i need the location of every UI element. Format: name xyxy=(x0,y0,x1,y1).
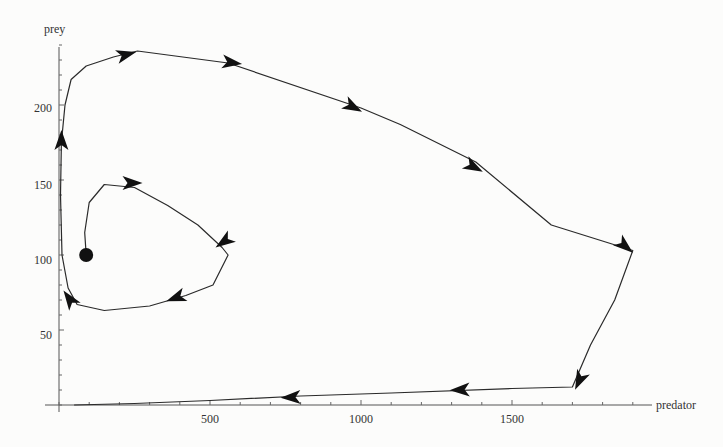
arrow-head-icon xyxy=(164,288,188,308)
phase-plot: predator prey 500 1000 1500 50 100 150 2… xyxy=(0,0,723,447)
arrow-head-icon xyxy=(115,45,138,64)
y-tick-label-50: 50 xyxy=(40,328,52,342)
start-point-marker xyxy=(79,248,93,262)
arrow-head-icon xyxy=(280,390,300,405)
x-tick-label-1500: 1500 xyxy=(500,412,524,426)
x-tick-label-1000: 1000 xyxy=(349,412,373,426)
x-axis-label: predator xyxy=(656,398,696,412)
y-tick-label-150: 150 xyxy=(34,178,52,192)
x-tick-label-500: 500 xyxy=(201,412,219,426)
axes: predator prey 500 1000 1500 50 100 150 2… xyxy=(34,22,696,426)
y-axis-label: prey xyxy=(44,22,65,36)
direction-arrows xyxy=(54,45,637,405)
arrow-head-icon xyxy=(613,234,637,258)
trajectory-line xyxy=(61,51,633,405)
y-tick-label-200: 200 xyxy=(34,101,52,115)
arrow-head-icon xyxy=(341,96,365,118)
y-tick-label-100: 100 xyxy=(34,253,52,267)
